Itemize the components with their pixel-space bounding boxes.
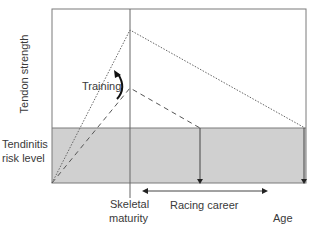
tendon-strength-diagram bbox=[0, 0, 315, 230]
risk-label-line2: risk level bbox=[2, 152, 45, 165]
training-label: Training bbox=[82, 80, 121, 93]
risk-label-line1: Tendinitis bbox=[2, 138, 48, 151]
racing-career-label: Racing career bbox=[170, 199, 238, 212]
arrowhead-left-icon bbox=[142, 188, 148, 194]
arrowhead-right-icon bbox=[262, 188, 268, 194]
skeletal-label-line1: Skeletal bbox=[110, 198, 149, 211]
tendinitis-risk-band bbox=[52, 128, 306, 183]
skeletal-label-line2: maturity bbox=[109, 212, 148, 225]
x-axis-label: Age bbox=[273, 212, 293, 225]
y-axis-label: Tendon strength bbox=[18, 35, 30, 114]
